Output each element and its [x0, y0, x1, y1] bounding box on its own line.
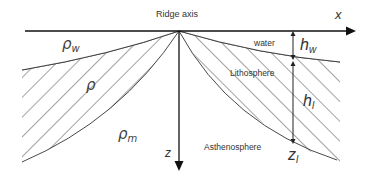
lithosphere-thickness-label: hl [303, 93, 314, 111]
lithosphere-label: Lithosphere [230, 69, 274, 78]
z-axis-label: z [165, 147, 171, 159]
lithosphere-base-label: zl [288, 147, 298, 165]
lithosphere-density-label: ρ [86, 78, 96, 95]
ridge-axis-label: Ridge axis [156, 10, 198, 19]
asthenosphere-label: Asthenosphere [204, 143, 261, 152]
water-label: water [254, 39, 275, 48]
z-axis [175, 31, 184, 171]
water-depth-label: hw [300, 37, 316, 55]
x-axis-arrowhead-icon [346, 27, 356, 36]
x-axis-label: x [335, 8, 342, 21]
z-axis-arrowhead-icon [175, 161, 184, 171]
water-density-label: ρw [62, 37, 80, 54]
mantle-density-label: ρm [118, 127, 137, 144]
mid-ocean-ridge-diagram [0, 0, 372, 180]
